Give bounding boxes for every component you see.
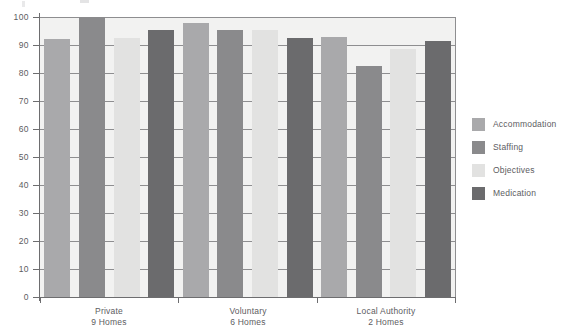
category-label-voluntary: Voluntary6 Homes [193, 306, 303, 328]
y-axis-label-80: 80 [1, 69, 29, 78]
category-name: Voluntary [229, 306, 266, 316]
page-edge-artifact [22, 0, 98, 9]
y-tick-40 [33, 185, 40, 186]
y-axis-label-100: 100 [1, 13, 29, 22]
category-name: Local Authority [357, 306, 416, 316]
x-axis-line [39, 297, 456, 298]
y-axis-label-10: 10 [1, 265, 29, 274]
bar-voluntary-staffing [217, 30, 243, 297]
bar-voluntary-medication [287, 38, 313, 297]
bar-private-medication [148, 30, 174, 297]
bar-voluntary-accommodation [183, 23, 209, 297]
legend-swatch-medication [472, 187, 485, 200]
category-home-count: 2 Homes [331, 317, 441, 328]
legend-label-accommodation: Accommodation [493, 119, 557, 129]
x-tick-1 [178, 297, 179, 303]
category-label-local-authority: Local Authority2 Homes [331, 306, 441, 328]
y-tick-10 [33, 269, 40, 270]
legend-label-objectives: Objectives [493, 165, 535, 175]
bar-private-objectives [114, 38, 140, 297]
y-axis-label-70: 70 [1, 97, 29, 106]
y-axis-label-50: 50 [1, 153, 29, 162]
x-tick-3 [455, 297, 456, 303]
x-tick-0 [40, 297, 41, 303]
y-tick-90 [33, 45, 40, 46]
x-tick-2 [317, 297, 318, 303]
artifact-mark-right [80, 0, 89, 3]
y-tick-50 [33, 157, 40, 158]
bar-local-authority-accommodation [321, 37, 347, 297]
bar-local-authority-objectives [390, 49, 416, 297]
category-name: Private [95, 306, 123, 316]
y-tick-30 [33, 213, 40, 214]
bar-voluntary-objectives [252, 30, 278, 297]
bar-chart: 0102030405060708090100 Private9 HomesVol… [0, 0, 567, 330]
y-tick-60 [33, 129, 40, 130]
legend-swatch-objectives [472, 164, 485, 177]
bar-private-staffing [79, 17, 105, 297]
y-tick-20 [33, 241, 40, 242]
y-axis-label-60: 60 [1, 125, 29, 134]
y-axis-label-30: 30 [1, 209, 29, 218]
y-tick-80 [33, 73, 40, 74]
y-tick-70 [33, 101, 40, 102]
artifact-mark-left [22, 1, 25, 7]
bar-local-authority-medication [425, 41, 451, 297]
bar-private-accommodation [44, 39, 70, 297]
bar-local-authority-staffing [356, 66, 382, 297]
category-label-private: Private9 Homes [54, 306, 164, 328]
category-home-count: 9 Homes [54, 317, 164, 328]
y-tick-0 [33, 297, 40, 298]
y-tick-100 [33, 17, 40, 18]
y-axis-label-20: 20 [1, 237, 29, 246]
legend-label-staffing: Staffing [493, 142, 523, 152]
y-axis-label-40: 40 [1, 181, 29, 190]
y-axis-label-90: 90 [1, 41, 29, 50]
legend-swatch-staffing [472, 141, 485, 154]
legend-swatch-accommodation [472, 118, 485, 131]
y-axis-label-0: 0 [1, 293, 29, 302]
legend-label-medication: Medication [493, 188, 536, 198]
category-home-count: 6 Homes [193, 317, 303, 328]
plot-right-border [455, 17, 456, 298]
